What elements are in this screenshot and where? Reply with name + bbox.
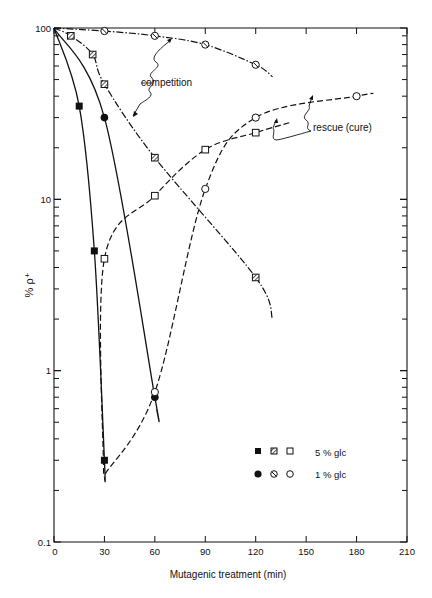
x-tick-label: 210 [399, 546, 415, 557]
legend-label-5-glc: 5 % glc [315, 447, 346, 458]
x-tick-label: 30 [99, 546, 110, 557]
hatched-square-marker [152, 154, 159, 161]
competition-label: competition [141, 77, 192, 88]
data-curves [54, 28, 373, 482]
curve-open-circle [105, 93, 373, 473]
legend-hatched-square-icon [271, 448, 277, 454]
open-square-marker [152, 192, 159, 199]
legend-filled-square-icon [255, 448, 261, 454]
y-tick-label: 1 [46, 365, 51, 376]
plot-axes: 03060901201501802100.1110100 [35, 23, 415, 558]
filled-square-marker [101, 457, 108, 464]
x-tick-label: 60 [150, 546, 161, 557]
y-tick-label: 100 [35, 23, 51, 34]
hatched-square-marker [89, 51, 96, 58]
plot-frame [54, 28, 407, 542]
x-tick-label: 150 [298, 546, 314, 557]
legend-filled-circle-icon [254, 470, 261, 477]
open-square-marker [252, 129, 259, 136]
annotations: competition rescue (cure) [133, 38, 372, 140]
x-tick-label: 0 [52, 546, 57, 557]
y-tick-label: 10 [40, 194, 51, 205]
x-tick-label: 180 [349, 546, 365, 557]
open-circle-marker [151, 388, 158, 395]
legend-open-square-icon [287, 448, 293, 454]
filled-square-marker [76, 103, 83, 110]
hatched-square-marker [252, 274, 259, 281]
legend: 5 % glc 1 % glc [254, 447, 346, 480]
filled-circle-marker [101, 114, 109, 122]
chart: 03060901201501802100.1110100 competition… [0, 0, 432, 598]
y-tick-label: 0.1 [38, 537, 51, 548]
x-axis-label: Mutagenic treatment (min) [170, 569, 287, 580]
rescue-squiggle-arrow [273, 97, 312, 140]
rescue-label: rescue (cure) [313, 122, 372, 133]
legend-open-circle-icon [287, 471, 294, 478]
hatched-square-marker [101, 81, 108, 88]
rescue-arrowhead-1 [309, 95, 313, 100]
data-markers [68, 27, 361, 463]
open-square-marker [101, 255, 108, 262]
x-tick-label: 120 [248, 546, 264, 557]
hatched-square-marker [68, 33, 75, 40]
legend-label-1-glc: 1 % glc [315, 469, 346, 480]
filled-square-marker [91, 247, 98, 254]
open-circle-marker [202, 185, 209, 192]
y-axis-label: % ρ⁺ [23, 272, 35, 297]
open-circle-marker [353, 93, 360, 100]
curve-open-square [100, 123, 289, 474]
x-tick-label: 90 [200, 546, 211, 557]
open-square-marker [202, 146, 209, 153]
rescue-arrowhead-2 [274, 118, 278, 123]
curve-hatched-circle [54, 28, 273, 77]
open-circle-marker [252, 114, 259, 121]
